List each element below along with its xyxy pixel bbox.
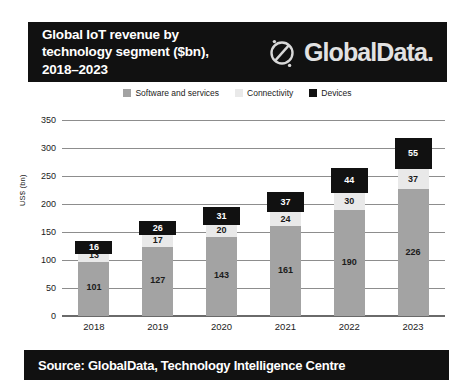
legend-item-software-and-services: Software and services: [123, 88, 219, 98]
bar-value-label: 26: [153, 224, 163, 233]
bar-segment[interactable]: 20: [206, 224, 237, 237]
bar-value-label: 143: [214, 271, 229, 280]
gridline: [62, 316, 445, 317]
gridline: [62, 148, 445, 149]
bar-segment[interactable]: 127: [142, 245, 173, 316]
bar-segment[interactable]: 44: [331, 168, 368, 193]
bar-segment[interactable]: 37: [398, 169, 429, 190]
y-axis-tick-label: 150: [41, 227, 56, 237]
bar-value-label: 226: [406, 248, 421, 257]
bar-value-label: 190: [342, 258, 357, 267]
y-axis-tick-label: 50: [46, 283, 56, 293]
x-axis-line: [62, 315, 445, 316]
bar-segment[interactable]: 16: [75, 241, 112, 254]
legend-item-devices: Devices: [309, 88, 351, 98]
bar-value-label: 31: [217, 212, 227, 221]
gridline: [62, 232, 445, 233]
legend-label: Devices: [321, 88, 351, 98]
bar-value-label: 24: [280, 215, 290, 224]
x-axis-tick-label: 2021: [275, 321, 296, 332]
bar-segment[interactable]: 13: [78, 249, 109, 262]
globaldata-circle-logo-icon: [265, 35, 299, 69]
chart-header-banner: Global IoT revenue by technology segment…: [28, 22, 447, 82]
gridline: [62, 260, 445, 261]
bar-segment[interactable]: 55: [395, 138, 432, 169]
gridline: [62, 176, 445, 177]
gridline: [62, 120, 445, 121]
y-axis-label: US$ (bn): [18, 174, 27, 206]
bar-segment[interactable]: 226: [398, 189, 429, 316]
y-axis-tick-label: 100: [41, 255, 56, 265]
bar-value-label: 37: [280, 198, 290, 207]
bar-segment[interactable]: 26: [139, 221, 176, 236]
bar-value-label: 16: [89, 243, 99, 252]
legend-swatch-icon: [123, 89, 131, 97]
bar-segment[interactable]: 30: [334, 193, 365, 210]
gridline: [62, 288, 445, 289]
y-axis-tick-label: 350: [41, 115, 56, 125]
legend-swatch-icon: [309, 89, 317, 97]
bar-segment[interactable]: 24: [270, 212, 301, 225]
x-axis-tick-label: 2019: [147, 321, 168, 332]
gridline: [62, 204, 445, 205]
y-axis-tick-label: 0: [51, 311, 56, 321]
bar-value-label: 20: [217, 226, 227, 235]
source-text: Source: GlobalData, Technology Intellige…: [38, 358, 345, 373]
bar-segment[interactable]: 101: [78, 259, 109, 316]
x-axis-tick-label: 2020: [211, 321, 232, 332]
legend-label: Software and services: [135, 88, 219, 98]
bar-value-label: 13: [89, 251, 99, 260]
bar-segment[interactable]: 143: [206, 236, 237, 316]
legend-label: Connectivity: [247, 88, 293, 98]
legend-swatch-icon: [235, 89, 243, 97]
bar-value-label: 55: [408, 149, 418, 158]
bar-segment[interactable]: 37: [267, 192, 304, 213]
bar-value-label: 37: [408, 175, 418, 184]
y-axis-tick-label: 250: [41, 171, 56, 181]
y-axis-tick-label: 300: [41, 143, 56, 153]
y-axis-tick-label: 200: [41, 199, 56, 209]
legend-item-connectivity: Connectivity: [235, 88, 293, 98]
bar-value-label: 101: [86, 283, 101, 292]
bar-segment[interactable]: 190: [334, 210, 365, 316]
bar-segment[interactable]: 31: [203, 207, 240, 224]
x-axis-tick-label: 2022: [339, 321, 360, 332]
page-title: Global IoT revenue by technology segment…: [42, 26, 209, 78]
bar-segment[interactable]: 161: [270, 226, 301, 316]
x-axis-tick-label: 2023: [403, 321, 424, 332]
x-axis-tick-label: 2018: [83, 321, 104, 332]
bar-value-label: 127: [150, 276, 165, 285]
bar-value-label: 44: [344, 176, 354, 185]
brand-name: GlobalData.: [304, 40, 433, 65]
bar-value-label: 161: [278, 266, 293, 275]
chart-legend: Software and services Connectivity Devic…: [0, 88, 475, 98]
plot-area: 0501001502002503003501011316201812717262…: [62, 120, 445, 316]
bar-value-label: 30: [344, 197, 354, 206]
bar-segment[interactable]: 17: [142, 234, 173, 247]
brand-lockup: GlobalData.: [265, 35, 435, 69]
source-banner: Source: GlobalData, Technology Intellige…: [24, 350, 449, 380]
bar-value-label: 17: [153, 236, 163, 245]
